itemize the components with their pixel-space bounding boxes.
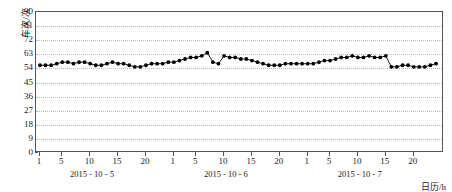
data-point <box>429 63 433 67</box>
data-point <box>244 57 248 61</box>
data-point <box>434 62 438 66</box>
data-point <box>284 62 288 66</box>
data-point <box>183 57 187 61</box>
data-point <box>72 62 76 66</box>
data-point <box>345 56 349 60</box>
data-point <box>228 56 232 60</box>
data-point <box>384 54 388 58</box>
y-tick-label: 90 <box>0 7 33 16</box>
data-point <box>239 57 243 61</box>
data-point <box>105 62 109 66</box>
x-tick-label: 5 <box>49 156 73 166</box>
data-point <box>217 62 221 66</box>
data-point <box>111 60 115 64</box>
data-point <box>334 57 338 61</box>
plot-area <box>35 11 443 152</box>
data-point <box>55 62 59 66</box>
data-point <box>289 62 293 66</box>
data-point <box>261 62 265 66</box>
x-tick-label: 5 <box>183 156 207 166</box>
y-tick-label: 9 <box>0 134 33 143</box>
data-point <box>395 65 399 69</box>
data-point <box>401 63 405 67</box>
data-point <box>362 56 366 60</box>
data-point <box>250 59 254 63</box>
data-point <box>406 63 410 67</box>
x-axis-title: 日历/h <box>421 182 446 192</box>
y-tick-label: 54 <box>0 63 33 72</box>
data-point <box>172 60 176 64</box>
data-point <box>423 65 427 69</box>
data-point <box>77 60 81 64</box>
data-point <box>306 62 310 66</box>
x-tick-label: 20 <box>267 156 291 166</box>
data-point <box>267 63 271 67</box>
data-point <box>127 63 131 67</box>
data-point <box>373 56 377 60</box>
data-point <box>378 56 382 60</box>
data-point <box>200 54 204 58</box>
data-point <box>161 62 165 66</box>
data-point <box>150 62 154 66</box>
data-point <box>233 56 237 60</box>
data-point <box>88 62 92 66</box>
series-line <box>40 53 436 67</box>
data-point <box>144 63 148 67</box>
data-point <box>323 59 327 63</box>
x-tick-label: 10 <box>77 156 101 166</box>
data-point <box>133 65 137 69</box>
data-point <box>256 60 260 64</box>
data-point <box>99 63 103 67</box>
data-point <box>412 65 416 69</box>
data-point <box>272 63 276 67</box>
data-point <box>83 60 87 64</box>
x-tick-label: 15 <box>105 156 129 166</box>
data-point <box>328 59 332 63</box>
x-tick-label: 20 <box>401 156 425 166</box>
data-point <box>94 63 98 67</box>
x-tick-label: 1 <box>295 156 319 166</box>
y-tick-label: 18 <box>0 120 33 129</box>
data-point <box>278 63 282 67</box>
x-tick-label: 20 <box>133 156 157 166</box>
line-chart: 车次/次 09182736455463728190 日历/h 151015201… <box>0 0 452 192</box>
y-tick-label: 36 <box>0 92 33 101</box>
y-tick-label: 72 <box>0 35 33 44</box>
data-point <box>311 62 315 66</box>
data-point <box>166 60 170 64</box>
x-axis-day-label: 2015 - 10 - 6 <box>166 169 286 179</box>
x-axis-day-label: 2015 - 10 - 5 <box>32 169 152 179</box>
data-point <box>317 60 321 64</box>
data-point <box>178 59 182 63</box>
data-point <box>367 54 371 58</box>
data-point <box>350 54 354 58</box>
data-point <box>222 54 226 58</box>
data-point <box>38 63 42 67</box>
x-tick-label: 15 <box>239 156 263 166</box>
data-point <box>49 63 53 67</box>
data-point <box>122 62 126 66</box>
data-point <box>339 56 343 60</box>
x-tick-label: 10 <box>345 156 369 166</box>
data-point <box>194 56 198 60</box>
data-point <box>44 63 48 67</box>
data-point <box>389 65 393 69</box>
data-point <box>205 51 209 55</box>
data-point <box>155 62 159 66</box>
data-point <box>66 60 70 64</box>
y-tick-label: 81 <box>0 21 33 30</box>
x-axis-day-label: 2015 - 10 - 7 <box>300 169 420 179</box>
data-point <box>417 65 421 69</box>
data-point <box>116 62 120 66</box>
x-axis-ticks: 日历/h 1510152015101520151015202015 - 10 -… <box>0 152 452 192</box>
data-point <box>211 60 215 64</box>
x-tick-label: 15 <box>373 156 397 166</box>
x-tick-label: 1 <box>161 156 185 166</box>
data-point <box>295 62 299 66</box>
data-series <box>36 12 444 153</box>
x-tick-label: 5 <box>317 156 341 166</box>
x-tick-label: 10 <box>211 156 235 166</box>
data-point <box>138 65 142 69</box>
data-point <box>300 62 304 66</box>
data-point <box>60 60 64 64</box>
